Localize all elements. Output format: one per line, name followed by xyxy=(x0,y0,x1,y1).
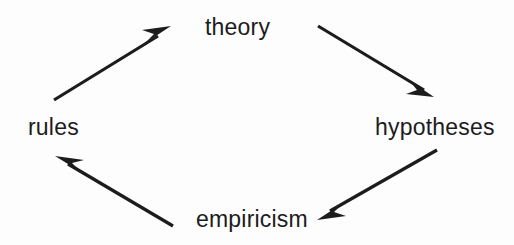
arrow-shaft xyxy=(330,150,437,211)
node-label-rules: rules xyxy=(28,116,79,139)
arrow-shaft xyxy=(54,36,158,100)
arrow-hypotheses-to-empiricism xyxy=(317,150,437,220)
diagram-canvas: theory hypotheses empiricism rules xyxy=(0,0,514,245)
arrow-rules-to-theory xyxy=(54,26,171,100)
node-label-hypotheses: hypotheses xyxy=(375,116,495,139)
node-label-empiricism: empiricism xyxy=(196,208,308,231)
arrow-shaft xyxy=(318,26,424,90)
arrow-empiricism-to-rules xyxy=(55,156,173,226)
node-label-theory: theory xyxy=(205,16,270,39)
arrow-theory-to-hypotheses xyxy=(318,26,434,97)
arrow-shaft xyxy=(68,164,173,226)
arrow-head xyxy=(142,26,171,43)
